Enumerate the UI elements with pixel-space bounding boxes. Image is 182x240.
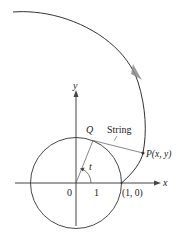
involute-diagram: y x 0 1 (1, 0) Q String P(x, y) t [0,0,182,240]
string-leader [114,136,117,141]
y-axis-arrow-icon [74,90,79,97]
y-axis-label: y [72,80,78,91]
origin-label: 0 [67,187,72,198]
involute-curve [13,12,145,183]
string-segment [93,141,143,154]
string-label: String [107,124,131,135]
point-1-0-label: (1, 0) [122,188,143,199]
Q-label: Q [86,124,94,135]
x-axis-label: x [162,177,168,188]
x-axis-arrow-icon [154,181,161,186]
angle-t-label: t [89,161,92,172]
point-P [142,152,145,155]
point-1-0 [121,182,123,184]
tick-one-label: 1 [94,187,99,198]
P-label: P(x, y) [145,149,171,160]
